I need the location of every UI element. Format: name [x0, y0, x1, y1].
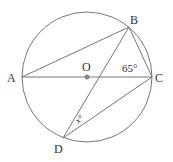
circle-geometry-diagram: A B C D O 65° x°: [0, 0, 173, 162]
chord-DC: [63, 77, 152, 138]
label-C: C: [155, 71, 163, 85]
label-O: O: [82, 60, 91, 74]
label-B: B: [130, 13, 138, 27]
center-point: [85, 75, 90, 80]
angle-label-65: 65°: [122, 62, 137, 74]
label-D: D: [54, 142, 63, 156]
diagram-canvas: A B C D O 65° x°: [0, 0, 173, 162]
chord-BD: [63, 27, 129, 138]
label-A: A: [7, 71, 16, 85]
